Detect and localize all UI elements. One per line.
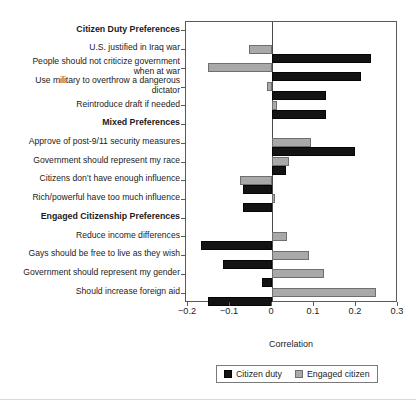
category-label: U.S. justified in Iraq war bbox=[0, 43, 180, 53]
category-group-header: Mixed Preferences bbox=[0, 118, 180, 128]
bar-duty bbox=[243, 203, 272, 212]
bar-engaged bbox=[272, 269, 324, 278]
bar-duty bbox=[272, 72, 361, 81]
x-axis-tick-label: 0 bbox=[251, 306, 291, 316]
bar-engaged bbox=[208, 63, 272, 72]
bar-duty bbox=[272, 166, 286, 175]
category-label: People should not criticize government w… bbox=[0, 57, 180, 76]
bar-engaged bbox=[272, 194, 275, 203]
category-group-header: Engaged Citizenship Preferences bbox=[0, 212, 180, 222]
x-axis-tick-label: −0.1 bbox=[209, 306, 249, 316]
bar-duty bbox=[272, 147, 355, 156]
bar-engaged bbox=[240, 176, 272, 185]
bar-engaged bbox=[272, 157, 289, 166]
category-label: Reintroduce draft if needed bbox=[0, 100, 180, 110]
bar-duty bbox=[243, 185, 272, 194]
plot-area bbox=[185, 21, 397, 302]
bar-engaged bbox=[272, 232, 287, 241]
legend-item-engaged[interactable]: Engaged citizen bbox=[295, 369, 370, 379]
bar-engaged bbox=[272, 101, 277, 110]
bar-duty bbox=[223, 260, 272, 269]
category-axis-labels: Citizen Duty PreferencesU.S. justified i… bbox=[0, 21, 180, 302]
x-axis-tick-label: 0.2 bbox=[335, 306, 375, 316]
legend-swatch-engaged-icon bbox=[295, 370, 303, 378]
category-label: Reduce income differences bbox=[0, 231, 180, 241]
bar-duty bbox=[272, 91, 326, 100]
category-label: Government should represent my gender bbox=[0, 268, 180, 278]
legend-label: Citizen duty bbox=[236, 369, 282, 379]
category-label: Gays should be free to live as they wish bbox=[0, 249, 180, 259]
bar-duty bbox=[262, 278, 272, 287]
bar-duty bbox=[272, 54, 371, 63]
x-axis-title: Correlation bbox=[185, 339, 397, 349]
category-group-header: Citizen Duty Preferences bbox=[0, 25, 180, 35]
page-divider bbox=[0, 399, 416, 400]
legend-label: Engaged citizen bbox=[307, 369, 370, 379]
bar-engaged bbox=[272, 138, 311, 147]
category-label: Use military to overthrow a dangerous di… bbox=[0, 76, 180, 95]
bar-engaged bbox=[272, 288, 376, 297]
bar-duty bbox=[272, 110, 326, 119]
chart-figure: Citizen Duty PreferencesU.S. justified i… bbox=[0, 0, 416, 406]
bar-engaged bbox=[267, 82, 272, 91]
category-label: Citizens don’t have enough influence bbox=[0, 174, 180, 184]
x-axis-tick-label: 0.1 bbox=[293, 306, 333, 316]
bar-engaged bbox=[272, 251, 309, 260]
category-label: Approve of post-9/11 security measures bbox=[0, 137, 180, 147]
chart-legend: Citizen dutyEngaged citizen bbox=[216, 365, 378, 383]
bar-engaged bbox=[249, 45, 272, 54]
legend-swatch-duty-icon bbox=[224, 370, 232, 378]
x-axis-tick-label: 0.3 bbox=[377, 306, 416, 316]
category-label: Rich/powerful have too much influence bbox=[0, 193, 180, 203]
legend-item-duty[interactable]: Citizen duty bbox=[224, 369, 282, 379]
category-label: Government should represent my race bbox=[0, 156, 180, 166]
bar-duty bbox=[201, 241, 272, 250]
bar-duty bbox=[208, 297, 272, 306]
category-label: Should increase foreign aid bbox=[0, 287, 180, 297]
x-axis-tick-label: −0.2 bbox=[167, 306, 207, 316]
